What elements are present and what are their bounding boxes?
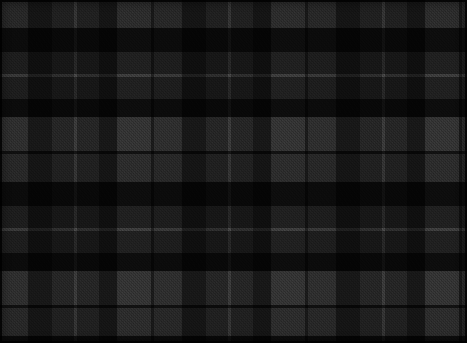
cloth-noise-texture — [0, 0, 467, 343]
fabric-field — [0, 0, 467, 343]
twill-weave-texture — [0, 0, 467, 343]
weft-highlight-layer — [0, 0, 467, 343]
tartan-swatch: Tartan Plaid Swatch — [0, 0, 467, 343]
warp-stripe-layer — [0, 0, 467, 343]
yarn-grain-texture — [0, 0, 467, 343]
weft-stripe-layer — [0, 0, 467, 343]
